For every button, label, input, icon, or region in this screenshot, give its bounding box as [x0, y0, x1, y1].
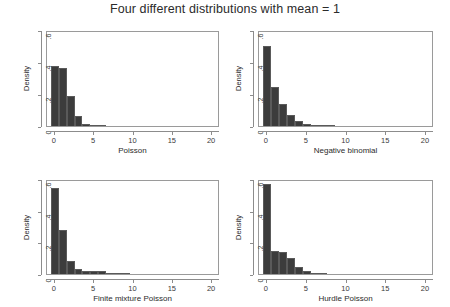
x-tick	[306, 280, 307, 283]
x-tick	[425, 280, 426, 283]
bar	[319, 273, 327, 274]
x-tick	[346, 280, 347, 283]
y-axis-line-hurdle-poisson	[253, 180, 254, 275]
panel-hurdle-poisson: 0.2.4.6Density05101520Hurdle Poisson	[0, 0, 450, 307]
y-tick	[250, 243, 253, 244]
figure-container: Four different distributions with mean =…	[0, 0, 450, 307]
x-tick	[266, 280, 267, 283]
x-tick-label: 5	[304, 284, 308, 293]
bar	[287, 258, 295, 274]
y-tick-label: 0	[257, 274, 264, 288]
x-axis-title-hurdle-poisson: Hurdle Poisson	[258, 294, 433, 303]
bar	[311, 273, 319, 274]
y-tick-label: .6	[257, 179, 264, 193]
plot-area-hurdle-poisson	[258, 180, 433, 275]
bar	[263, 184, 271, 274]
y-tick-label: .4	[257, 210, 264, 224]
y-tick-label: .2	[257, 242, 264, 256]
bar	[271, 251, 279, 274]
x-tick-label: 0	[264, 284, 268, 293]
x-tick-label: 10	[341, 284, 349, 293]
y-tick	[250, 275, 253, 276]
histogram-bars-hurdle-poisson	[259, 181, 432, 274]
bar	[295, 267, 303, 274]
y-axis-title-hurdle-poisson: Density	[234, 202, 243, 252]
bar	[303, 271, 311, 274]
bar	[279, 252, 287, 274]
x-tick	[385, 280, 386, 283]
y-tick	[250, 180, 253, 181]
x-tick-label: 15	[381, 284, 389, 293]
x-tick-label: 20	[421, 284, 429, 293]
y-tick	[250, 212, 253, 213]
